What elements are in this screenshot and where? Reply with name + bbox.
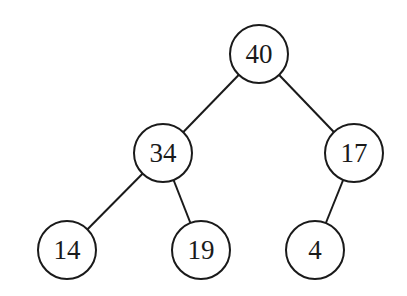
- tree-node-14: 14: [38, 221, 96, 279]
- tree-node-34: 34: [134, 124, 192, 182]
- binary-tree-diagram: 40 34 17 14 19 4: [0, 0, 407, 296]
- node-label: 34: [150, 138, 178, 168]
- node-label: 40: [246, 39, 273, 69]
- node-label: 14: [54, 235, 82, 265]
- tree-node-17: 17: [325, 124, 383, 182]
- nodes: 40 34 17 14 19 4: [38, 25, 383, 279]
- tree-node-19: 19: [172, 221, 230, 279]
- node-label: 19: [188, 235, 215, 265]
- node-label: 17: [341, 138, 368, 168]
- tree-node-4: 4: [286, 221, 344, 279]
- node-label: 4: [308, 235, 322, 265]
- tree-node-40: 40: [230, 25, 288, 83]
